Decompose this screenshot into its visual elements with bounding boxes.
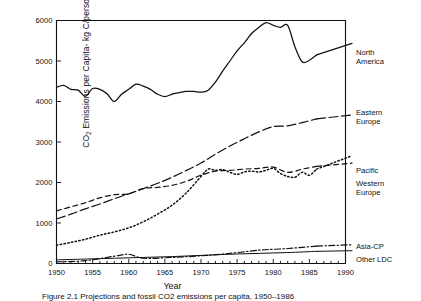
svg-text:6000: 6000: [36, 16, 53, 25]
svg-text:1980: 1980: [265, 268, 282, 277]
series-leader-eastern-europe: [317, 115, 352, 119]
svg-text:1970: 1970: [193, 268, 210, 277]
series-leader-other-ldc: [317, 251, 352, 252]
x-axis-title: Year: [0, 281, 345, 291]
series-label-asia-cp: Asia-CP: [356, 243, 384, 252]
svg-text:1950: 1950: [48, 268, 65, 277]
series-line-pacific: [57, 168, 317, 245]
series-leader-north-america: [317, 43, 352, 55]
svg-text:5000: 5000: [36, 57, 53, 66]
svg-text:0: 0: [48, 259, 52, 268]
figure-co2-emissions-per-capita: CO2 Emissions per Capita- kg C/person-ye…: [0, 0, 421, 301]
svg-text:1955: 1955: [84, 268, 101, 277]
series-line-eastern-europe: [57, 119, 317, 219]
series-leader-western-europe: [317, 163, 352, 166]
series-label-north-america: North America: [356, 49, 384, 66]
series-label-pacific: Pacific: [356, 167, 378, 176]
svg-text:1975: 1975: [229, 268, 246, 277]
svg-text:1965: 1965: [156, 268, 173, 277]
svg-text:3000: 3000: [36, 138, 53, 147]
svg-text:1960: 1960: [120, 268, 137, 277]
series-leader-asia-cp: [317, 245, 352, 246]
series-line-western-europe: [57, 166, 317, 211]
series-leader-pacific: [317, 156, 352, 169]
svg-text:1985: 1985: [301, 268, 318, 277]
series-line-north-america: [57, 22, 317, 101]
svg-text:2000: 2000: [36, 178, 53, 187]
series-label-western-europe: Western Europe: [356, 180, 384, 197]
series-line-other-ldc: [57, 251, 317, 260]
svg-text:1000: 1000: [36, 219, 53, 228]
series-label-other-ldc: Other LDC: [356, 256, 392, 265]
series-label-eastern-europe: Eastern Europe: [356, 109, 382, 126]
svg-text:1990: 1990: [337, 268, 354, 277]
figure-caption: Figure 2.1 Projections and fossil CO2 em…: [42, 292, 382, 301]
svg-text:4000: 4000: [36, 97, 53, 106]
series-line-asia-cp: [57, 246, 317, 262]
